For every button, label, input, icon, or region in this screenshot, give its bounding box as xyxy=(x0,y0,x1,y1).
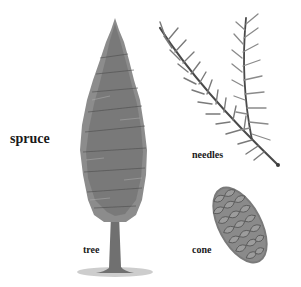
needles-illustration xyxy=(160,14,280,167)
needles-label: needles xyxy=(192,150,223,160)
cone-illustration xyxy=(201,178,279,273)
tree-label: tree xyxy=(83,245,99,255)
diagram-title: spruce xyxy=(10,132,50,146)
tree-illustration xyxy=(77,18,153,277)
cone-label: cone xyxy=(192,245,211,255)
